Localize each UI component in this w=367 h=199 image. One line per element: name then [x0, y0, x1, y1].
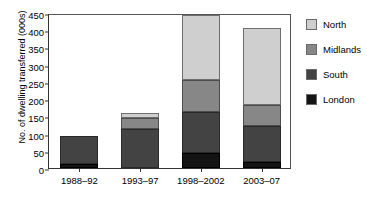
y-tick-mark [45, 152, 49, 153]
x-tick-mark [262, 168, 263, 172]
legend-item-midlands[interactable]: Midlands [306, 42, 366, 56]
legend-swatch-icon [306, 94, 317, 105]
bar-segment-london [182, 153, 220, 169]
y-tick-mark [45, 135, 49, 136]
y-tick-mark [45, 49, 49, 50]
y-tick-mark [45, 15, 49, 16]
legend-swatch-icon [306, 19, 317, 30]
bar-segment-south [121, 129, 159, 168]
bar-segment-north [243, 28, 281, 105]
x-tick-label: 2003–07 [243, 175, 280, 186]
chart-screenshot: No. of dwelling transferred (000s) 05010… [0, 0, 367, 199]
bar-segment-south [243, 126, 281, 162]
legend-item-north[interactable]: North [306, 17, 366, 31]
y-tick-mark [45, 83, 49, 84]
plot-area: 050100150200250300350400450 1988–921993–… [48, 14, 291, 169]
bar-segment-north [121, 113, 159, 118]
x-tick-label: 1993–97 [122, 175, 159, 186]
x-tick-label: 1988–92 [61, 175, 98, 186]
bar-segment-north [182, 15, 220, 80]
legend: NorthMidlandsSouthLondon [306, 17, 366, 117]
legend-swatch-icon [306, 44, 317, 55]
legend-item-label: North [323, 19, 346, 30]
legend-item-south[interactable]: South [306, 67, 366, 81]
y-tick-mark [45, 32, 49, 33]
y-tick-mark [45, 170, 49, 171]
y-tick-mark [45, 118, 49, 119]
x-tick-mark [201, 168, 202, 172]
bar-segment-midlands [243, 105, 281, 126]
legend-item-label: Midlands [323, 44, 361, 55]
bar-segment-south [182, 112, 220, 153]
x-tick-label: 1998–2002 [177, 175, 225, 186]
y-tick-mark [45, 66, 49, 67]
legend-item-london[interactable]: London [306, 92, 366, 106]
bar-segment-south [60, 136, 98, 164]
legend-item-label: London [323, 94, 355, 105]
x-tick-mark [140, 168, 141, 172]
y-tick-mark [45, 101, 49, 102]
x-tick-mark [79, 168, 80, 172]
legend-swatch-icon [306, 69, 317, 80]
bar-segment-midlands [121, 118, 159, 129]
legend-item-label: South [323, 69, 348, 80]
bar-segment-midlands [182, 80, 220, 112]
y-axis-title: No. of dwelling transferred (000s) [17, 0, 27, 157]
